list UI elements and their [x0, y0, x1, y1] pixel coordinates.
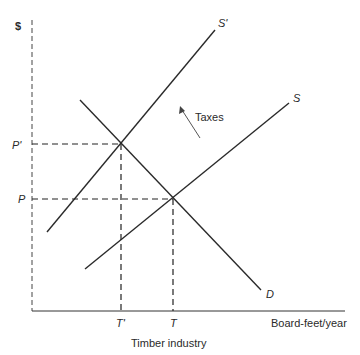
taxes-label: Taxes [195, 111, 224, 123]
y-axis-label: $ [15, 20, 21, 32]
s-prime-label: S' [218, 17, 227, 29]
x-axis-label: Board-feet/year [271, 317, 347, 329]
s-label: S [293, 92, 300, 104]
demand-curve-d [80, 100, 261, 290]
supply-demand-diagram [0, 0, 360, 355]
p-label: P [18, 193, 25, 205]
supply-curve-s [85, 103, 289, 269]
d-label: D [266, 288, 274, 300]
supply-curve-s-prime [47, 30, 215, 232]
t-label: T [170, 317, 177, 329]
t-prime-label: T' [116, 317, 125, 329]
caption: Timber industry [131, 337, 206, 349]
p-prime-label: P' [12, 139, 21, 151]
